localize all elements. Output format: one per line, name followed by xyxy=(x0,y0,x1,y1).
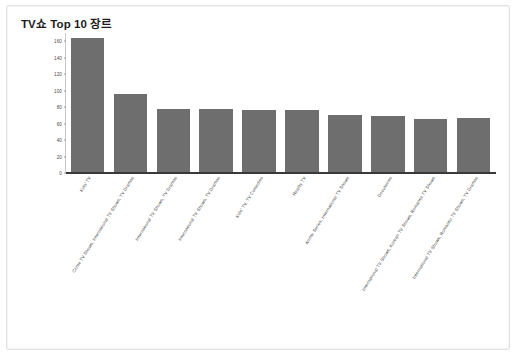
bar-slot xyxy=(281,33,324,173)
bar-slot xyxy=(366,33,409,173)
chart-card: TV쇼 Top 10 장르 020406080100120140160 Kids… xyxy=(6,5,510,350)
y-axis-tick-label: 20 xyxy=(57,154,62,159)
bar[interactable] xyxy=(71,38,104,173)
y-axis-tick-label: 60 xyxy=(57,121,62,126)
screenshot-root: TV쇼 Top 10 장르 020406080100120140160 Kids… xyxy=(0,0,516,355)
x-axis-tick-label-text: Anime Series, International TV Shows xyxy=(304,176,350,246)
y-axis-tick-label: 0 xyxy=(59,171,62,176)
page-title: TV쇼 Top 10 장르 xyxy=(21,15,113,31)
x-axis-tick-label-text: Docuseries xyxy=(376,176,393,199)
y-axis-tick-label: 140 xyxy=(54,55,62,60)
x-axis-tick-labels: Kids' TVCrime TV Shows, International TV… xyxy=(66,175,495,350)
y-axis-tick-label: 40 xyxy=(57,138,62,143)
plot-area: 020406080100120140160 xyxy=(66,33,495,173)
x-axis-tick-label-text: International TV Shows, TV Dramas xyxy=(134,176,178,242)
y-axis-tick-label: 120 xyxy=(54,72,62,77)
bar-series xyxy=(66,33,495,173)
y-axis-tick-label: 160 xyxy=(54,39,62,44)
y-axis-tick-label: 100 xyxy=(54,88,62,93)
bar-slot xyxy=(66,33,109,173)
x-axis-tick-label-text: International TV Shows, TV Dramas xyxy=(177,176,221,242)
x-axis-tick-label-text: International TV Shows, Korean TV Shows,… xyxy=(361,176,436,292)
y-axis-tick-label: 80 xyxy=(57,105,62,110)
x-axis-tick-label-text: Kids' TV xyxy=(79,176,92,193)
x-axis-tick-label-text: Kids' TV, TV Comedies xyxy=(235,176,265,219)
x-axis-tick-label-text: Reality TV xyxy=(291,176,307,197)
